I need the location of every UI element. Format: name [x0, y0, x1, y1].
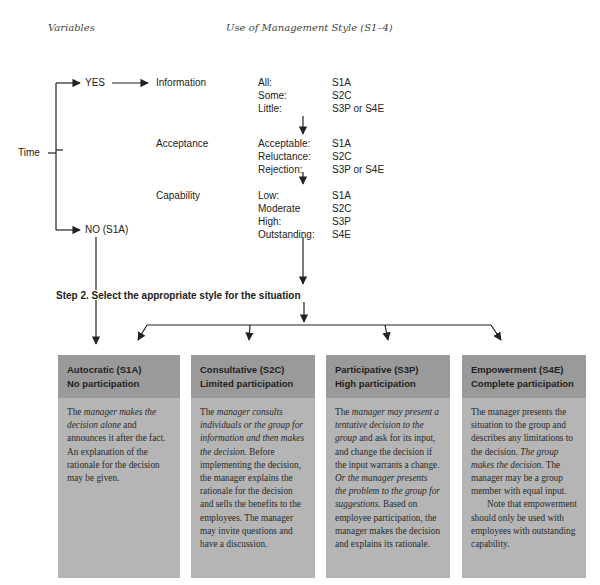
- level-style: S2C: [332, 203, 351, 214]
- style-box-empowerment: Empowerment (S4E) Complete participation…: [462, 355, 586, 578]
- level-style: S4E: [332, 229, 351, 240]
- style-description: The manager presents the situation to th…: [462, 398, 586, 559]
- style-title: Consultative (S2C): [200, 363, 306, 377]
- style-title: Participative (S3P): [335, 363, 441, 377]
- style-description: The manager may present a tentative deci…: [326, 398, 450, 559]
- style-title: Autocratic (S1A): [67, 363, 171, 377]
- style-box-header: Participative (S3P) High participation: [326, 355, 450, 398]
- style-subtitle: No participation: [67, 377, 171, 391]
- variable-information: Information: [156, 77, 206, 88]
- level-label: Low:: [258, 190, 279, 201]
- variable-acceptance: Acceptance: [156, 138, 208, 149]
- level-label: Reluctance:: [258, 151, 311, 162]
- yes-label: YES: [85, 77, 105, 88]
- variable-capability: Capability: [156, 190, 200, 201]
- level-label: High:: [258, 216, 281, 227]
- level-label: Outstanding:: [258, 229, 315, 240]
- style-box-autocratic: Autocratic (S1A) No participation The ma…: [58, 355, 180, 578]
- style-description: The manager makes the decision alone and…: [58, 398, 180, 493]
- text-run: Before implementing the decision, the ma…: [200, 447, 301, 549]
- time-label: Time: [18, 147, 40, 158]
- style-title: Empowerment (S4E): [471, 363, 577, 377]
- level-label: All:: [258, 77, 272, 88]
- style-box-consultative: Consultative (S2C) Limited participation…: [191, 355, 315, 578]
- level-style: S3P or S4E: [332, 164, 384, 175]
- level-label: Some:: [258, 90, 287, 101]
- level-label: Acceptable:: [258, 138, 310, 149]
- level-style: S1A: [332, 77, 351, 88]
- text-run: The: [67, 407, 84, 417]
- level-label: Rejection:: [258, 164, 302, 175]
- style-description: The manager consults individuals or the …: [191, 398, 315, 559]
- level-style: S2C: [332, 151, 351, 162]
- no-label: NO (S1A): [85, 224, 128, 235]
- text-run: The: [200, 407, 217, 417]
- style-subtitle: Limited participation: [200, 377, 306, 391]
- style-box-header: Consultative (S2C) Limited participation: [191, 355, 315, 398]
- level-style: S1A: [332, 190, 351, 201]
- level-style: S3P: [332, 216, 351, 227]
- level-label: Moderate: [258, 203, 300, 214]
- style-subtitle: Complete participation: [471, 377, 577, 391]
- level-style: S2C: [332, 90, 351, 101]
- step-2-heading: Step 2. Select the appropriate style for…: [56, 290, 301, 301]
- style-subtitle: High participation: [335, 377, 441, 391]
- level-style: S3P or S4E: [332, 103, 384, 114]
- style-box-header: Empowerment (S4E) Complete participation: [462, 355, 586, 398]
- style-box-header: Autocratic (S1A) No participation: [58, 355, 180, 398]
- style-box-participative: Participative (S3P) High participation T…: [326, 355, 450, 578]
- text-run: The: [335, 407, 352, 417]
- level-label: Little:: [258, 103, 282, 114]
- empowerment-note: Note that empowerment should only be use…: [471, 499, 577, 549]
- level-style: S1A: [332, 138, 351, 149]
